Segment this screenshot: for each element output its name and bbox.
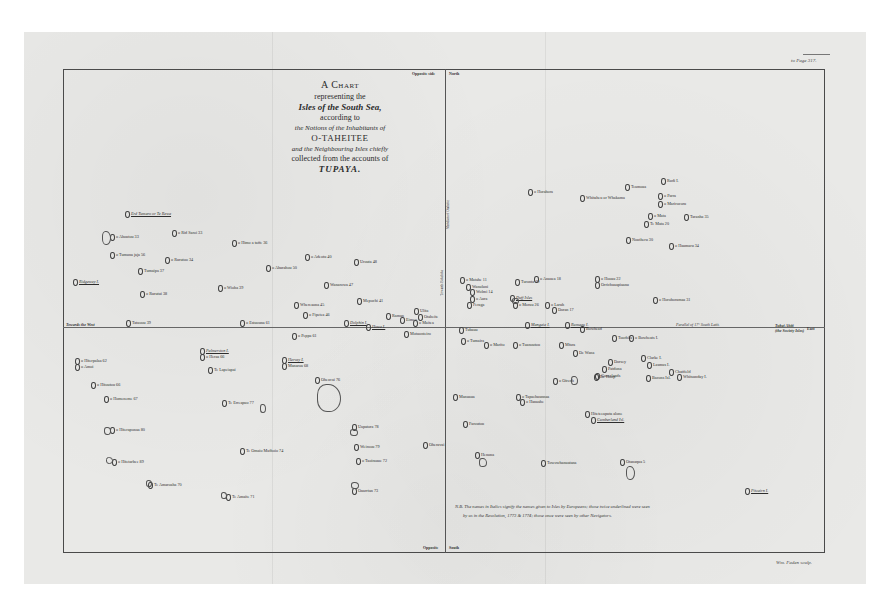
island-marker-icon (305, 254, 310, 261)
island-marker-icon (513, 342, 518, 349)
island-label: Dorsey (608, 359, 626, 366)
island-label: De Wana (573, 350, 594, 357)
island-name: o Hanaahe (526, 399, 544, 404)
island-outline-icon (221, 492, 227, 499)
island-marker-icon (658, 201, 663, 208)
island-name: Teamoaa (631, 184, 646, 189)
island-name: Towowhanuatana (547, 460, 576, 465)
island-outline-icon (104, 427, 111, 435)
island-name: Henona (481, 452, 494, 457)
bottom-label-south: South (449, 545, 459, 550)
island-marker-icon (356, 458, 361, 465)
island-name: o Rurutoo 34 (171, 257, 193, 262)
island-name: Orrichuaapiaanu (601, 282, 629, 287)
island-label: o Taoirauue 72 (356, 458, 387, 465)
island-label: o Fipetea 46 (303, 312, 330, 319)
island-marker-icon (110, 252, 115, 259)
island-marker-icon (200, 354, 205, 361)
island-name: Manaroa 68 (288, 363, 308, 368)
island-name: o Rid Saroi 33 (178, 230, 202, 235)
island-marker-icon (585, 411, 590, 418)
island-marker-icon (470, 289, 475, 296)
island-label: Clarke I. (641, 355, 662, 362)
island-marker-icon (620, 459, 625, 466)
island-label: Ouarrtan 73 (352, 488, 378, 495)
page-reference: to Page 317. (791, 58, 816, 63)
island-label: o Rurutui 38 (140, 291, 167, 298)
title-line-9: TUPAYA. (240, 165, 440, 174)
island-name: Patdona (608, 366, 622, 371)
island-name: Tumaipa 37 (144, 268, 164, 273)
island-name: o Peppa 61 (298, 333, 317, 338)
island-name: Clarke I. (647, 355, 662, 360)
island-name: o Maitea (419, 320, 434, 325)
island-label: Manaroa 68 (282, 363, 308, 370)
island-name: Te Amaroaha 70 (154, 482, 182, 487)
island-label: o Hitetarbee 89 (112, 459, 144, 466)
island-name: o Aura (476, 296, 487, 301)
island-marker-icon (545, 302, 550, 309)
island-label: o Ahoutou 33 (110, 234, 139, 241)
island-name: Urouta 48 (360, 259, 377, 264)
island-name: Hiteteeaputa alone (591, 411, 622, 416)
island-label: Towowhanuatana (541, 460, 576, 467)
island-label: o Tuanoutou (513, 342, 540, 349)
island-label: Erd Tumaro or Te Rewa (125, 211, 171, 218)
parallel-line (63, 327, 825, 328)
island-outline-icon (102, 231, 111, 245)
island-label: Lasmus I. (647, 362, 670, 369)
island-name: o Horahora (534, 189, 553, 194)
island-name: Uapatora 78 (358, 424, 379, 429)
island-name: Motuonteiro (410, 331, 431, 336)
island-name: o Heraa 66 (206, 354, 224, 359)
island-label: Doran 17 (552, 307, 574, 314)
island-outline-icon (512, 298, 519, 304)
island-marker-icon (515, 279, 520, 286)
island-name: o Horohoramaa 31 (659, 297, 690, 302)
top-rule (803, 54, 830, 55)
island-marker-icon (626, 237, 631, 244)
island-marker-icon (138, 268, 143, 275)
island-label: Rudi I. (661, 178, 679, 185)
island-name: Whereaona 45 (300, 302, 324, 307)
island-label: o Hanaahe (520, 399, 544, 406)
island-name: Weiroou 79 (360, 444, 380, 449)
island-label: Wanarowa 47 (324, 282, 353, 289)
island-name: o Fipetea 46 (309, 312, 330, 317)
island-marker-icon (91, 382, 96, 389)
island-name: o Marirocoru (664, 201, 686, 206)
island-name: Dolphin I. (350, 320, 367, 325)
island-marker-icon (648, 213, 653, 220)
parallel-note: Parallel of 17° South Latit. (676, 322, 720, 327)
island-label: Te Erreapuo 77 (222, 400, 254, 407)
top-label-opposite: Opposite side (412, 71, 435, 76)
island-outline-icon (626, 466, 635, 480)
island-name: Taranha 35 (690, 214, 709, 219)
island-name: Cumberland Isl. (597, 417, 624, 422)
island-name: Te Erreapuo 77 (228, 400, 254, 405)
island-label: Oheavai 76 (315, 377, 340, 384)
island-name: Te Omaio Mafhoio 74 (246, 448, 283, 453)
island-marker-icon (625, 184, 630, 191)
island-marker-icon (232, 240, 237, 247)
island-outline-icon (571, 376, 578, 385)
island-outline-icon (351, 482, 359, 489)
island-marker-icon (646, 375, 651, 382)
island-marker-icon (172, 230, 177, 237)
island-marker-icon (467, 302, 472, 309)
island-label: Tumaipa 37 (138, 268, 164, 275)
island-name: o Matahe 11 (466, 277, 487, 282)
island-marker-icon (386, 313, 391, 320)
island-label: Toorhila (612, 335, 632, 342)
island-outline-icon (350, 429, 358, 436)
meridian-line (445, 69, 446, 553)
island-marker-icon (125, 211, 130, 218)
island-name: Te Mata 20 (650, 221, 669, 226)
island-label: o Haumaru 34 (669, 243, 699, 250)
island-label: o Ahurahou 50 (266, 265, 297, 272)
island-label: o Matahe 11 (460, 277, 487, 284)
island-name: Hervey I. (288, 357, 304, 362)
island-name: Wolmi 14 (476, 289, 493, 294)
island-marker-icon (684, 214, 689, 221)
island-label: Cumberland Isl. (591, 417, 624, 424)
